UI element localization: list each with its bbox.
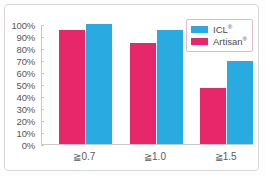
bar-icl bbox=[157, 30, 183, 144]
bar-icl bbox=[86, 24, 112, 144]
legend-label: Artisan® bbox=[213, 36, 247, 47]
y-axis-tick-mark bbox=[41, 109, 44, 110]
bar-group bbox=[59, 25, 112, 144]
legend-item[interactable]: Artisan® bbox=[191, 36, 247, 47]
legend-label: ICL® bbox=[213, 24, 232, 35]
y-axis-tick-mark bbox=[41, 25, 44, 26]
bar-group bbox=[130, 25, 183, 144]
bar-artisan bbox=[200, 88, 226, 144]
y-axis-tick-label: 100% bbox=[12, 20, 36, 31]
legend: ICL®Artisan® bbox=[186, 19, 253, 52]
y-axis: 100%90%80%70%60%50%40%30%20%10%0% bbox=[5, 25, 39, 145]
y-axis-tick-mark bbox=[41, 73, 44, 74]
y-axis-tick-label: 20% bbox=[17, 116, 35, 127]
y-axis-tick-mark bbox=[41, 85, 44, 86]
bar-artisan bbox=[130, 43, 156, 144]
chart-frame: 100%90%80%70%60%50%40%30%20%10%0% ≧0.7≧1… bbox=[4, 4, 259, 171]
y-axis-tick-label: 40% bbox=[17, 92, 35, 103]
y-axis-tick-label: 80% bbox=[17, 44, 35, 55]
y-axis-tick-label: 70% bbox=[17, 56, 35, 67]
y-axis-tick-mark bbox=[41, 145, 44, 146]
y-axis-tick-mark bbox=[41, 49, 44, 50]
y-axis-tick-mark bbox=[41, 133, 44, 134]
x-axis-tick-label: ≧1.0 bbox=[129, 151, 182, 162]
x-axis-tick-label: ≧1.5 bbox=[199, 151, 252, 162]
y-axis-tick-mark bbox=[41, 97, 44, 98]
y-axis-tick-label: 0% bbox=[22, 140, 35, 151]
y-axis-tick-mark bbox=[41, 61, 44, 62]
y-axis-tick-label: 60% bbox=[17, 68, 35, 79]
y-axis-tick-label: 10% bbox=[17, 128, 35, 139]
bar-artisan bbox=[59, 30, 85, 144]
legend-item[interactable]: ICL® bbox=[191, 24, 247, 35]
registered-trademark-icon: ® bbox=[243, 36, 247, 42]
legend-swatch-icl bbox=[191, 26, 208, 33]
y-axis-tick-mark bbox=[41, 121, 44, 122]
y-axis-tick-label: 90% bbox=[17, 32, 35, 43]
legend-swatch-artisan bbox=[191, 38, 208, 45]
x-axis-tick-label: ≧0.7 bbox=[58, 151, 111, 162]
registered-trademark-icon: ® bbox=[228, 24, 232, 30]
y-axis-tick-label: 50% bbox=[17, 80, 35, 91]
bar-icl bbox=[227, 61, 253, 144]
y-axis-tick-label: 30% bbox=[17, 104, 35, 115]
y-axis-tick-mark bbox=[41, 37, 44, 38]
